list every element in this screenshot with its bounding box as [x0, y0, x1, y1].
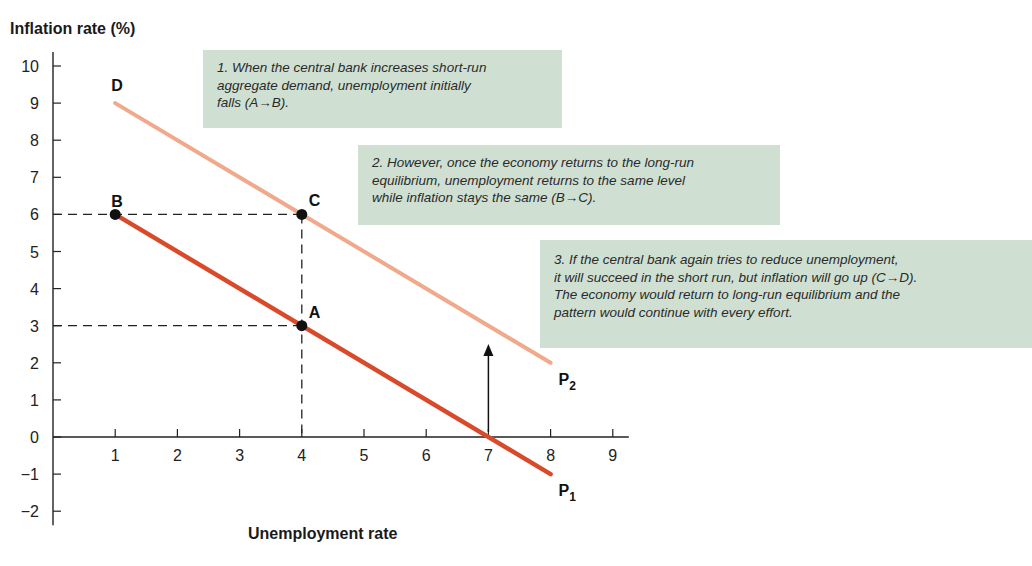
point-c-marker: [296, 209, 307, 220]
point-label-a: A: [309, 304, 321, 321]
annotation-3-line: pattern would continue with every effort…: [554, 304, 1018, 322]
arrow-up-icon: [483, 344, 493, 356]
curve-p1: [115, 214, 550, 474]
x-tick-label: 9: [608, 447, 617, 464]
y-tick-label: 5: [30, 244, 39, 261]
point-label-c: C: [309, 192, 321, 209]
x-tick-label: 4: [297, 447, 306, 464]
annotation-2-line: 2. However, once the economy returns to …: [372, 154, 766, 172]
x-axis-title: Unemployment rate: [248, 525, 397, 543]
annotation-2: 2. However, once the economy returns to …: [358, 145, 780, 225]
curve-p2: [115, 103, 550, 363]
point-label-b: B: [111, 193, 123, 210]
x-tick-label: 5: [360, 447, 369, 464]
annotation-2-line: while inflation stays the same (B→C).: [372, 189, 766, 207]
point-b-marker: [110, 209, 121, 220]
annotation-1-line: 1. When the central bank increases short…: [217, 59, 548, 77]
annotation-3-line: it will succeed in the short run, but in…: [554, 269, 1018, 287]
curve-label-subscript: 2: [569, 379, 576, 393]
y-tick-label: 3: [30, 318, 39, 335]
annotation-1-line: falls (A→B).: [217, 94, 548, 112]
y-tick-label: 9: [30, 95, 39, 112]
annotation-3-line: The economy would return to long-run equ…: [554, 286, 1018, 304]
y-tick-label: −1: [21, 466, 39, 483]
curve-label-p1: P1: [559, 482, 577, 504]
x-tick-label: 6: [422, 447, 431, 464]
y-tick-label: 6: [30, 206, 39, 223]
y-tick-label: 8: [30, 132, 39, 149]
annotation-1: 1. When the central bank increases short…: [203, 50, 562, 128]
y-tick-label: 4: [30, 281, 39, 298]
curve-label-subscript: 1: [569, 490, 576, 504]
annotation-1-line: aggregate demand, unemployment initially: [217, 77, 548, 95]
annotation-3: 3. If the central bank again tries to re…: [540, 240, 1032, 348]
annotation-3-line: 3. If the central bank again tries to re…: [554, 251, 1018, 269]
annotation-2-line: equilibrium, unemployment returns to the…: [372, 172, 766, 190]
point-a-marker: [296, 320, 307, 331]
x-tick-label: 8: [546, 447, 555, 464]
y-tick-label: −2: [21, 503, 39, 520]
y-tick-label: 7: [30, 169, 39, 186]
curve-label-p2: P2: [559, 371, 577, 393]
y-tick-label: 0: [30, 429, 39, 446]
point-label-d: D: [111, 77, 123, 94]
x-tick-label: 2: [173, 447, 182, 464]
y-tick-label: 1: [30, 392, 39, 409]
x-tick-label: 1: [111, 447, 120, 464]
y-tick-label: 10: [21, 58, 39, 75]
x-tick-label: 3: [235, 447, 244, 464]
y-tick-label: 2: [30, 355, 39, 372]
x-tick-label: 7: [484, 447, 493, 464]
